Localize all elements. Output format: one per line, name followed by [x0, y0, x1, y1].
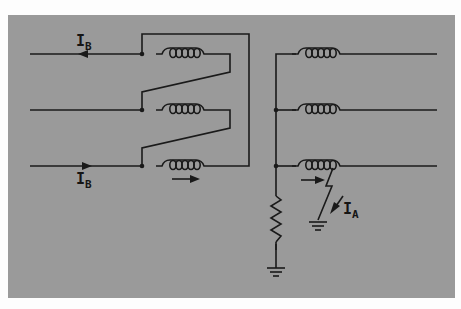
- label-ib-bottom: IB: [76, 170, 92, 191]
- fault-ground-icon: [309, 222, 327, 230]
- arrow-right-icon: [82, 162, 92, 170]
- primary-lines: [30, 52, 144, 169]
- fault-current-arrow: [330, 196, 343, 214]
- delta-winding: [142, 34, 249, 170]
- delta-current-arrow: [172, 175, 200, 183]
- neutral-resistor: [270, 196, 282, 244]
- label-ia-fault: IA: [343, 200, 359, 221]
- ground-icon: [267, 242, 285, 276]
- label-ib-top: IB: [76, 32, 92, 53]
- circuit-diagram: IB IB IA: [0, 0, 461, 309]
- secondary-current-arrow: [301, 176, 325, 184]
